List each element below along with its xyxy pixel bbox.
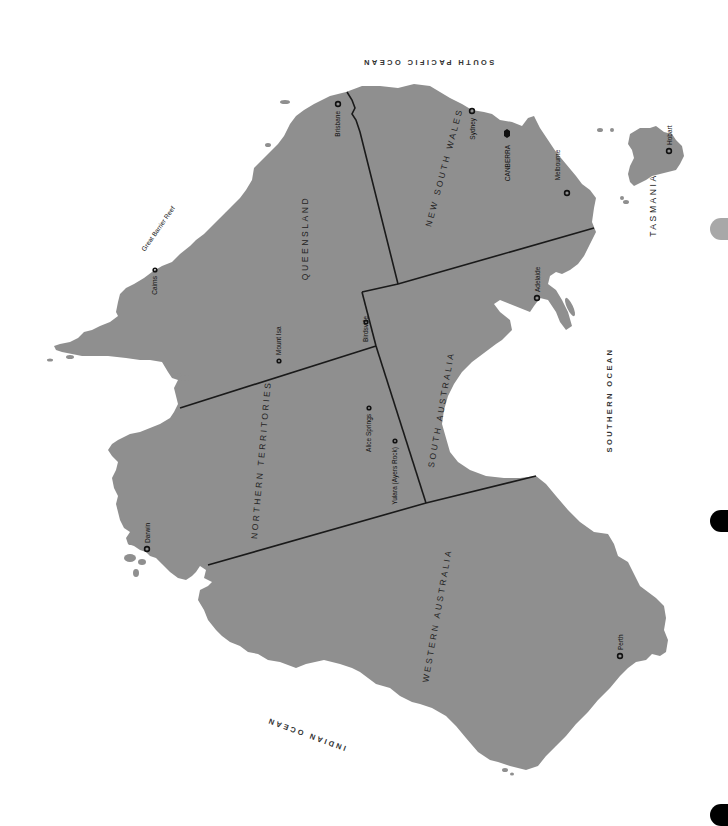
page-tab-black-2 — [710, 804, 728, 826]
page-tab-gray — [710, 218, 728, 240]
state-label-queensland: QUEENSLAND — [300, 196, 310, 281]
city-label: Cairns — [151, 275, 158, 295]
city-label: Perth — [617, 634, 624, 650]
ocean-label-south-pacific: SOUTH PACIFIC OCEAN — [362, 58, 495, 67]
city-label: Brisbane — [334, 111, 341, 137]
city-marker-icon — [153, 268, 157, 272]
state-label-tasmania: TASMANIA — [648, 173, 658, 237]
great-barrier-reef-label: Great Barrier Reef — [140, 205, 176, 253]
city-label: Birdsville — [362, 316, 369, 342]
mainland-australia — [54, 84, 668, 770]
city-label: Hobart — [666, 125, 673, 145]
city-label: Adelaide — [534, 266, 541, 292]
city-yulara: Yulara (Ayers Rock) — [391, 439, 399, 504]
city-label: Mount Isa — [275, 326, 282, 355]
city-label: Alice Springs — [365, 413, 373, 452]
ocean-label-indian: INDIAN OCEAN — [265, 716, 347, 753]
city-birdsville: Birdsville — [362, 316, 369, 342]
city-label: Melbourne — [554, 149, 561, 180]
city-label: Yulara (Ayers Rock) — [391, 447, 399, 505]
city-label: Sydney — [469, 117, 477, 139]
ocean-label-southern: SOUTHERN OCEAN — [605, 348, 614, 453]
city-label: CANBERRA — [504, 144, 511, 181]
page-tab-black-1 — [710, 510, 728, 532]
city-label: Darwin — [144, 522, 151, 543]
